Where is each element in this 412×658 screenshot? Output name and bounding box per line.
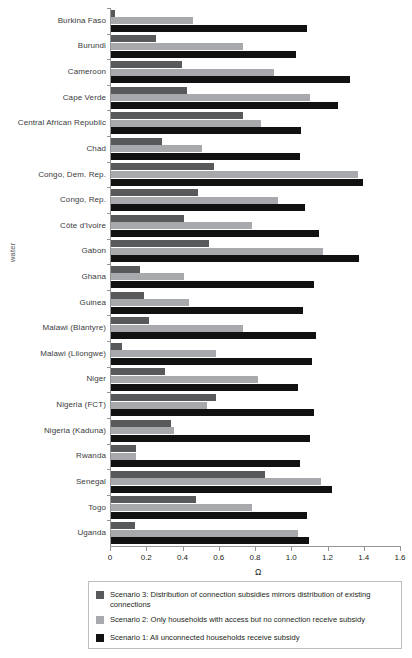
category-label: Nigeria (FCT) <box>0 400 106 409</box>
y-axis-tick <box>107 520 110 521</box>
y-axis-tick <box>107 213 110 214</box>
y-axis-tick <box>107 367 110 368</box>
x-axis-tick-label: 0 <box>108 553 112 562</box>
bar-group: Uganda <box>110 520 400 546</box>
category-label: Côte d'Ivoire <box>0 221 106 230</box>
bar-scenario-3 <box>111 61 182 68</box>
bar-group: Cape Verde <box>110 85 400 111</box>
legend-entry[interactable]: Scenario 3: Distribution of connection s… <box>96 590 402 610</box>
bar-scenario-1 <box>111 230 319 237</box>
x-axis-tick <box>364 547 365 551</box>
bar-scenario-1 <box>111 460 300 467</box>
x-axis-tick-label: 0.6 <box>213 553 224 562</box>
bar-scenario-3 <box>111 292 144 299</box>
category-label: Cameroon <box>0 67 106 76</box>
bar-scenario-3 <box>111 317 149 324</box>
y-axis-tick <box>107 239 110 240</box>
y-axis-tick <box>107 418 110 419</box>
bar-group: Senegal <box>110 469 400 495</box>
bar-scenario-2 <box>111 530 298 537</box>
bar-scenario-3 <box>111 394 216 401</box>
bar-scenario-3 <box>111 215 184 222</box>
y-axis-tick <box>107 8 110 9</box>
y-axis-tick <box>107 264 110 265</box>
bar-group: Nigeria (FCT) <box>110 392 400 418</box>
bar-scenario-2 <box>111 43 243 50</box>
category-label: Central African Republic <box>0 118 106 127</box>
bar-group: Nigeria (Kaduna) <box>110 418 400 444</box>
category-label: Nigeria (Kaduna) <box>0 426 106 435</box>
bar-group: Cameroon <box>110 59 400 85</box>
bar-scenario-1 <box>111 153 300 160</box>
chart-legend: Scenario 3: Distribution of connection s… <box>88 581 402 649</box>
bar-scenario-1 <box>111 281 314 288</box>
bar-scenario-1 <box>111 486 332 493</box>
bar-scenario-3 <box>111 163 214 170</box>
bar-scenario-1 <box>111 102 338 109</box>
bar-scenario-2 <box>111 427 174 434</box>
bar-scenario-1 <box>111 127 301 134</box>
category-label: Gabon <box>0 246 106 255</box>
legend-swatch-icon <box>96 634 104 642</box>
category-label: Congo, Rep. <box>0 195 106 204</box>
bar-group: Rwanda <box>110 444 400 470</box>
y-axis-tick <box>107 187 110 188</box>
category-label: Cape Verde <box>0 93 106 102</box>
legend-label: Scenario 3: Distribution of connection s… <box>110 590 402 610</box>
bar-scenario-1 <box>111 409 314 416</box>
y-axis-tick <box>107 315 110 316</box>
x-axis-tick <box>183 547 184 551</box>
bar-scenario-3 <box>111 471 265 478</box>
bar-scenario-2 <box>111 273 184 280</box>
bar-group: Burkina Faso <box>110 8 400 34</box>
bar-scenario-2 <box>111 17 193 24</box>
x-axis-tick <box>328 547 329 551</box>
bar-scenario-2 <box>111 350 216 357</box>
x-axis-tick <box>110 547 111 551</box>
bar-scenario-1 <box>111 384 298 391</box>
y-axis-tick <box>107 341 110 342</box>
legend-swatch-icon <box>96 591 104 599</box>
x-axis-tick-label: 1.6 <box>394 553 405 562</box>
bar-scenario-1 <box>111 76 350 83</box>
y-axis-tick <box>107 290 110 291</box>
bar-scenario-3 <box>111 240 209 247</box>
bar-scenario-3 <box>111 189 198 196</box>
legend-label: Scenario 2: Only households with access … <box>110 615 402 625</box>
bar-scenario-1 <box>111 512 307 519</box>
bar-group: Congo, Rep. <box>110 187 400 213</box>
bar-scenario-1 <box>111 179 363 186</box>
bar-scenario-3 <box>111 420 171 427</box>
bar-scenario-1 <box>111 307 303 314</box>
bar-scenario-3 <box>111 522 135 529</box>
x-axis-tick <box>146 547 147 551</box>
bar-scenario-3 <box>111 112 243 119</box>
bar-scenario-2 <box>111 248 323 255</box>
bar-scenario-3 <box>111 138 162 145</box>
bar-scenario-3 <box>111 266 140 273</box>
x-axis-tick <box>291 547 292 551</box>
category-label: Malawi (Lilongwe) <box>0 349 106 358</box>
category-label: Rwanda <box>0 451 106 460</box>
bar-group: Chad <box>110 136 400 162</box>
legend-entry[interactable]: Scenario 1: All unconnected households r… <box>96 633 402 643</box>
category-label: Burkina Faso <box>0 16 106 25</box>
bar-group: Malawi (Lilongwe) <box>110 341 400 367</box>
bar-scenario-1 <box>111 51 296 58</box>
category-label: Togo <box>0 503 106 512</box>
bar-scenario-2 <box>111 299 189 306</box>
plot-area: Burkina FasoBurundiCameroonCape VerdeCen… <box>110 8 400 546</box>
bar-scenario-3 <box>111 368 165 375</box>
y-axis-tick <box>107 34 110 35</box>
legend-label: Scenario 1: All unconnected households r… <box>110 633 402 643</box>
bar-group: Togo <box>110 495 400 521</box>
y-axis-tick <box>107 136 110 137</box>
y-axis-tick <box>107 85 110 86</box>
bar-group: Gabon <box>110 239 400 265</box>
bar-group: Congo, Dem. Rep. <box>110 162 400 188</box>
bar-scenario-2 <box>111 120 261 127</box>
x-axis-tick <box>255 547 256 551</box>
legend-entry[interactable]: Scenario 2: Only households with access … <box>96 615 402 625</box>
bar-chart: water Burkina FasoBurundiCameroonCape Ve… <box>0 0 412 658</box>
bar-group: Ghana <box>110 264 400 290</box>
